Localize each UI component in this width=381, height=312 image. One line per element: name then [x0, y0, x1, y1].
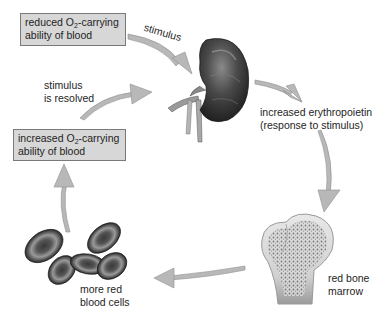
rbc-line1: more red: [80, 283, 130, 296]
erythropoietin-feedback-diagram: reduced O2-carrying ability of blood sti…: [0, 0, 381, 312]
erythropoietin-label: increased erythropoietin (response to st…: [260, 106, 372, 132]
arrow-rbc-to-increased-o2: [54, 164, 74, 232]
reduced-o2-line2: ability of blood: [25, 29, 121, 42]
bone-illustration: [262, 214, 334, 304]
arrow-kidney-to-erythropoietin: [255, 80, 302, 102]
arrow-stimulus-to-kidney: [128, 34, 192, 74]
increased-o2-suffix: -carrying: [79, 132, 120, 144]
erythropoietin-line1: increased erythropoietin: [260, 106, 372, 119]
red-blood-cells-illustration: [19, 217, 132, 290]
arrow-erythropoietin-to-bone: [318, 130, 340, 212]
rbc-line2: blood cells: [80, 296, 130, 309]
increased-o2-prefix: increased O: [18, 132, 75, 144]
reduced-o2-prefix: reduced O: [25, 16, 74, 28]
bone-marrow-label: red bone marrow: [328, 272, 369, 298]
resolved-line1: stimulus: [44, 79, 94, 92]
stimulus-resolved-label: stimulus is resolved: [44, 79, 94, 105]
reduced-o2-box: reduced O2-carrying ability of blood: [20, 13, 126, 46]
increased-o2-line2: ability of blood: [18, 145, 121, 158]
bone-marrow-line1: red bone: [328, 272, 369, 285]
reduced-o2-suffix: -carrying: [78, 16, 119, 28]
rbc-label: more red blood cells: [80, 283, 130, 309]
increased-o2-box: increased O2-carrying ability of blood: [13, 129, 126, 161]
reduced-o2-line1: reduced O2-carrying: [25, 16, 121, 29]
resolved-line2: is resolved: [44, 92, 94, 105]
increased-o2-line1: increased O2-carrying: [18, 132, 121, 145]
arrow-bone-to-rbc: [154, 266, 245, 288]
bone-marrow-line2: marrow: [328, 285, 369, 298]
erythropoietin-line2: (response to stimulus): [260, 119, 372, 132]
